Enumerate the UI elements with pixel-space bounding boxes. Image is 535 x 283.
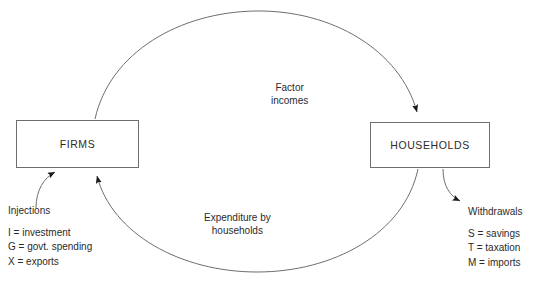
node-households-label: HOUSEHOLDS [390, 139, 470, 151]
expenditure-line-2: households [204, 224, 271, 237]
expenditure-label: Expenditure by households [204, 211, 271, 237]
node-firms-label: FIRMS [60, 138, 96, 150]
withdrawals-legend: Withdrawals S = savings T = taxation M =… [468, 205, 522, 270]
factor-incomes-label: Factor incomes [271, 81, 308, 107]
injections-legend: Injections I = investment G = govt. spen… [8, 204, 92, 269]
factor-incomes-line-1: Factor [271, 81, 308, 94]
factor-incomes-arrow [95, 11, 417, 119]
node-firms[interactable]: FIRMS [16, 120, 139, 168]
withdrawals-item: T = taxation [468, 241, 522, 256]
injections-item: G = govt. spending [8, 240, 92, 255]
injections-title: Injections [8, 204, 92, 219]
withdrawals-title: Withdrawals [468, 205, 522, 220]
circular-flow-diagram: FIRMS HOUSEHOLDS Factor incomes Expendit… [0, 0, 535, 283]
node-households[interactable]: HOUSEHOLDS [370, 122, 490, 168]
withdrawals-arrow [443, 169, 460, 201]
expenditure-line-1: Expenditure by [204, 211, 271, 224]
factor-incomes-line-2: incomes [271, 94, 308, 107]
withdrawals-item: S = savings [468, 227, 522, 242]
injections-item: I = investment [8, 226, 92, 241]
injections-arrow [36, 172, 55, 208]
injections-item: X = exports [8, 255, 92, 270]
withdrawals-item: M = imports [468, 256, 522, 271]
